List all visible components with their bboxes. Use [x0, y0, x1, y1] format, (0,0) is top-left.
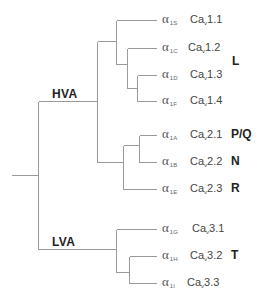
channel-type-l: L [232, 55, 239, 67]
leaf-alpha-1e: α1E [162, 181, 177, 195]
group-label-lva: LVA [52, 236, 75, 248]
leaf-cav-2-1: Cav2.1 [190, 129, 222, 141]
leaf-cav-3-2: Cav3.2 [190, 250, 222, 262]
leaf-cav-2-2: Cav2.2 [190, 156, 222, 168]
leaf-cav-1-3: Cav1.3 [190, 69, 222, 81]
channel-type-pq: P/Q [231, 128, 252, 140]
group-label-hva: HVA [52, 88, 77, 100]
leaf-alpha-1h: α1H [162, 248, 177, 262]
leaf-cav-1-2: Cav1.2 [188, 42, 220, 54]
channel-type-r: R [231, 182, 240, 194]
leaf-alpha-1c: α1C [162, 40, 177, 54]
leaf-cav-3-3: Cav3.3 [187, 277, 219, 289]
tree-branches [0, 0, 262, 304]
channel-type-t: T [231, 249, 238, 261]
channel-type-n: N [231, 155, 240, 167]
leaf-alpha-1f: α1F [162, 93, 177, 107]
leaf-cav-1-1: Cav1.1 [190, 14, 222, 26]
leaf-alpha-1i: α1I [162, 275, 175, 289]
leaf-alpha-1a: α1A [162, 127, 177, 141]
leaf-alpha-1b: α1B [162, 154, 177, 168]
leaf-alpha-1d: α1D [162, 67, 177, 81]
leaf-cav-3-1: Cav3.1 [192, 223, 224, 235]
leaf-cav-2-3: Cav2.3 [190, 183, 222, 195]
leaf-cav-1-4: Cav1.4 [190, 95, 222, 107]
leaf-alpha-1s: α1S [162, 12, 177, 26]
leaf-alpha-1g: α1G [162, 221, 178, 235]
